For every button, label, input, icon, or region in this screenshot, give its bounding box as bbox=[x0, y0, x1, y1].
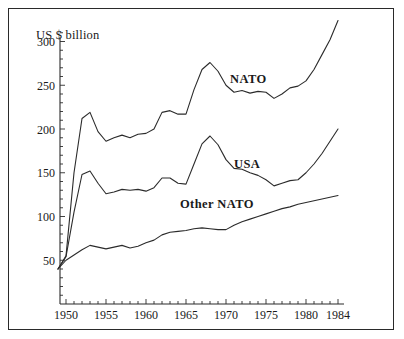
x-tick-label: 1975 bbox=[254, 308, 278, 322]
tick-marks-group bbox=[60, 33, 338, 304]
x-tick-label: 1965 bbox=[174, 308, 198, 322]
x-tick-label: 1970 bbox=[214, 308, 238, 322]
x-tick-label: 1950 bbox=[54, 308, 78, 322]
y-tick-label: 200 bbox=[37, 123, 55, 137]
y-tick-label: 50 bbox=[43, 254, 55, 268]
x-tick-label: 1980 bbox=[294, 308, 318, 322]
y-tick-label: 300 bbox=[37, 35, 55, 49]
y-tick-label: 100 bbox=[37, 210, 55, 224]
y-tick-label: 250 bbox=[37, 79, 55, 93]
x-tick-label: 1984 bbox=[326, 308, 350, 322]
plot-area: 50100150200250300 1950195519601965197019… bbox=[0, 0, 404, 339]
series-curve-other-nato bbox=[58, 196, 338, 270]
x-tick-labels: 19501955196019651970197519801984 bbox=[54, 308, 350, 322]
x-tick-label: 1960 bbox=[134, 308, 158, 322]
chart-figure: US $ billion NATO USA Other NATO 5010015… bbox=[0, 0, 404, 339]
y-tick-label: 150 bbox=[37, 166, 55, 180]
x-tick-label: 1955 bbox=[94, 308, 118, 322]
data-curves bbox=[58, 21, 338, 270]
axes-group bbox=[60, 37, 344, 304]
y-tick-labels: 50100150200250300 bbox=[37, 35, 55, 268]
series-curve-nato bbox=[58, 21, 338, 270]
